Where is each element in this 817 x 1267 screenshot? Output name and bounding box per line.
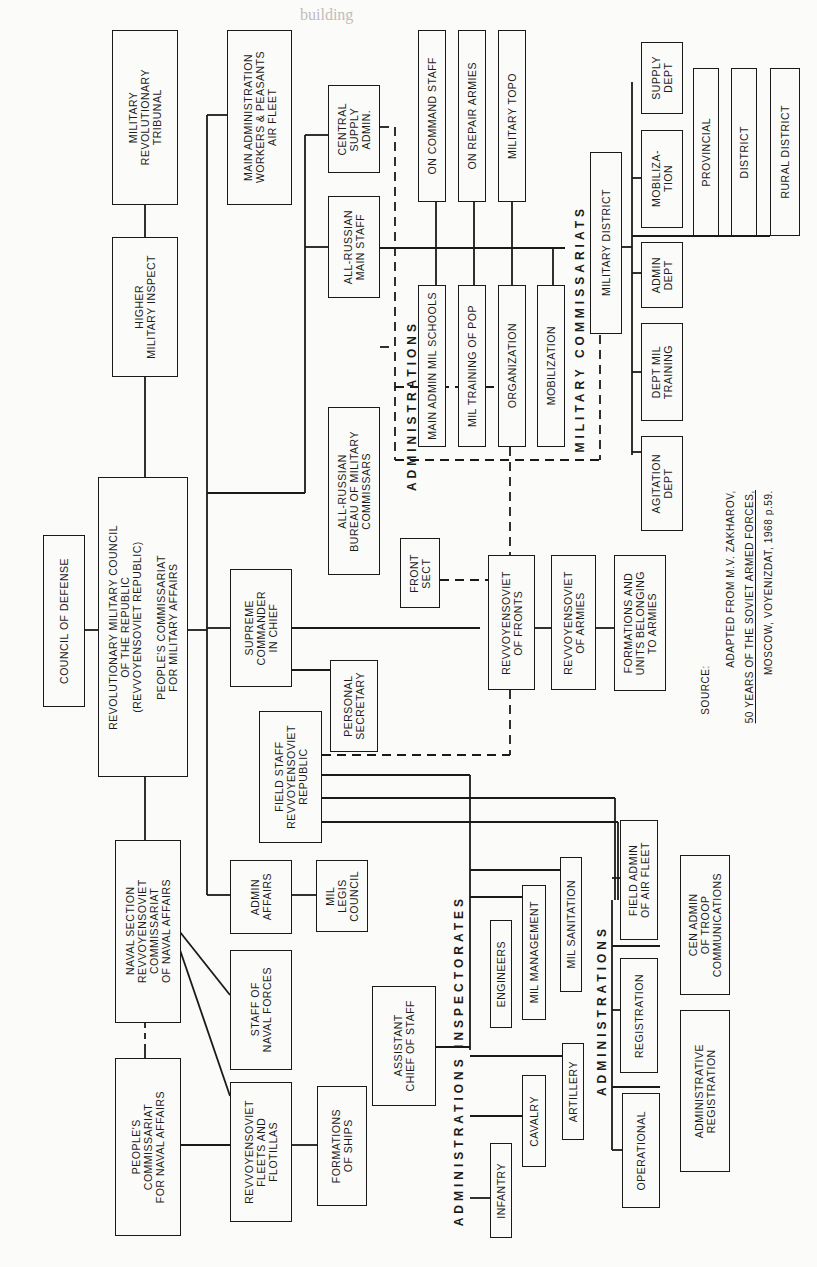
box-military-topo: MILITARY TOPO: [498, 30, 526, 202]
source-label: SOURCE:: [700, 665, 711, 715]
box-dept-mil-training: DEPT MIL TRAINING: [641, 323, 683, 421]
box-fleets-flotillas: REVVOYENSOVIET FLEETS AND FLOTILLAS: [230, 1082, 292, 1222]
box-supply-dept: SUPPLY DEPT: [641, 42, 683, 114]
box-personal-secretary: PERSONAL SECRETARY: [330, 660, 378, 752]
box-provincial: PROVINCIAL: [693, 68, 719, 236]
box-field-staff: FIELD STAFF REVVOYENSOVIET REPUBLIC: [259, 711, 322, 843]
box-operational: OPERATIONAL: [622, 1093, 660, 1208]
box-military-revolutionary-tribunal: MILITARY REVOLUTIONARY TRIBUNAL: [112, 30, 178, 205]
box-on-repair-armies: ON REPAIR ARMIES: [458, 30, 486, 202]
box-admin-affairs: ADMIN AFFAIRS: [230, 860, 292, 934]
box-peoples-commissariat-naval: PEOPLE'S COMMISSARIAT FOR NAVAL AFFAIRS: [115, 1058, 181, 1236]
box-revvoyensoviet-armies: REVVOYENSOVIET OF ARMIES: [551, 555, 596, 690]
box-revolutionary-military-council: REVOLUTIONARY MILITARY COUNCIL OF THE RE…: [98, 477, 188, 777]
box-council-of-defense: COUNCIL OF DEFENSE: [43, 535, 85, 707]
box-mil-sanitation: MIL SANITATION: [560, 857, 582, 992]
box-revvoyensoviet-fronts: REVVOYENSOVIET OF FRONTS: [488, 555, 535, 690]
box-mil-training-of-pop: MIL TRAINING OF POP: [458, 285, 486, 447]
box-supreme-commander: SUPREME COMMANDER IN CHIEF: [230, 569, 292, 687]
box-staff-naval-forces: STAFF OF NAVAL FORCES: [230, 950, 292, 1070]
source-line-1: ADAPTED FROM M.V. ZAKHAROV,: [725, 490, 736, 668]
source-line-2: 50 YEARS OF THE SOVIET ARMED FORCES,: [744, 490, 755, 723]
heading-military-commissariats: MILITARY COMMISSARIATS: [573, 205, 587, 453]
box-air-fleet-admin: MAIN ADMINISTRATION WORKERS & PEASANTS A…: [227, 30, 292, 205]
box-engineers: ENGINEERS: [490, 920, 512, 1028]
heading-administrations-top: ADMINISTRATIONS: [405, 320, 419, 491]
box-front-sect: FRONT SECT: [400, 538, 440, 608]
box-assistant-chief-of-staff: ASSISTANT CHIEF OF STAFF: [372, 986, 436, 1106]
box-main-admin-mil-schools: MAIN ADMIN MIL SCHOOLS: [418, 285, 446, 447]
box-on-command-staff: ON COMMAND STAFF: [418, 30, 446, 202]
source-line-3: MOSCOW, VOYENIZDAT, 1968 p.59.: [763, 490, 774, 675]
heading-administrations-bottom: ADMINISTRATIONS: [595, 925, 609, 1096]
box-mil-management: MIL MANAGEMENT: [522, 885, 546, 1020]
box-mobilization: MOBILIZATION: [537, 285, 565, 447]
box-naval-section: NAVAL SECTION REVVOYENSOVIET COMMISSARIA…: [115, 840, 181, 1023]
box-registration: REGISTRATION: [620, 958, 658, 1073]
box-infantry: INFANTRY: [490, 1143, 512, 1238]
box-mil-legis-council: MIL LEGIS COUNCIL: [316, 860, 368, 932]
box-cavalry: CAVALRY: [522, 1075, 546, 1167]
org-chart: building: [0, 0, 817, 1267]
box-district: DISTRICT: [731, 68, 757, 236]
box-rural-district: RURAL DISTRICT: [770, 68, 800, 236]
box-admin-dept: ADMIN DEPT: [641, 242, 683, 308]
box-formations-units-armies: FORMATIONS AND UNITS BELONGING TO ARMIES: [614, 555, 666, 691]
box-mobilization-dept: MOBILIZA- TION: [641, 130, 683, 228]
box-agitation-dept: AGITATION DEPT: [641, 436, 683, 531]
box-artillery: ARTILLERY: [562, 1043, 584, 1140]
box-field-admin-air-fleet: FIELD ADMIN OF AIR FLEET: [620, 820, 658, 940]
box-cen-admin-troop-communications: CEN ADMIN OF TROOP COMMUNICATIONS: [680, 855, 730, 995]
box-administrative-registration: ADMINISTRATIVE REGISTRATION: [680, 1010, 730, 1172]
box-military-district: MILITARY DISTRICT: [590, 152, 622, 334]
box-higher-military-inspect: HIGHER MILITARY INSPECT: [112, 237, 178, 377]
box-all-russian-main-staff: ALL-RUSSIAN MAIN STAFF: [328, 196, 380, 298]
box-central-supply-admin: CENTRAL SUPPLY ADMIN.: [328, 85, 380, 173]
heading-administrations-inspectorates: ADMINISTRATIONS INSPECTORATES: [452, 895, 466, 1226]
box-formations-of-ships: FORMATIONS OF SHIPS: [317, 1086, 367, 1206]
box-bureau-military-commissars: ALL-RUSSIAN BUREAU OF MILITARY COMMISSAR…: [328, 407, 380, 575]
box-organization: ORGANIZATION: [498, 285, 526, 447]
